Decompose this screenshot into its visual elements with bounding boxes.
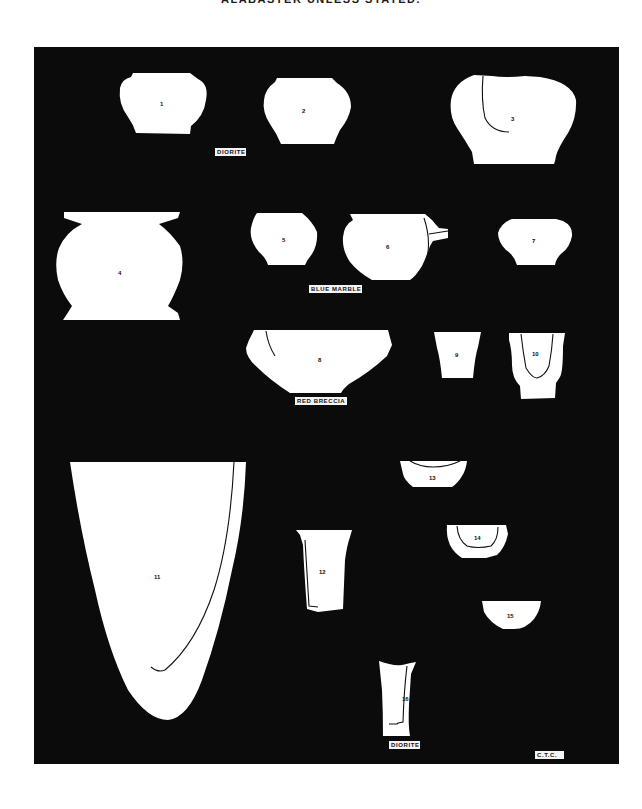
- vessel-drawings: 1 2 DIORITE 3 4 5 6 BLUE MARBLE 7: [0, 0, 642, 809]
- vessel-number: 10: [532, 351, 539, 357]
- vessel-number: 15: [507, 613, 514, 619]
- vessel-number: 14: [474, 535, 481, 541]
- vessel-4: 4: [56, 212, 182, 320]
- material-label-red-breccia: RED BRECCIA: [295, 397, 347, 405]
- vessel-15: 15: [482, 601, 541, 629]
- svg-text:C.T.C.: C.T.C.: [537, 752, 557, 758]
- vessel-6: 6: [343, 214, 448, 280]
- material-label-blue-marble: BLUE MARBLE: [309, 285, 362, 293]
- vessel-12: 12: [296, 530, 352, 612]
- vessel-number: 11: [154, 574, 161, 580]
- svg-text:BLUE MARBLE: BLUE MARBLE: [311, 286, 361, 292]
- vessel-5: 5: [251, 213, 317, 265]
- vessel-13: 13: [400, 461, 467, 487]
- svg-text:RED BRECCIA: RED BRECCIA: [297, 398, 345, 404]
- vessel-2: 2: [264, 78, 351, 144]
- vessel-number: 16: [402, 696, 409, 702]
- vessel-8: 8: [246, 330, 392, 393]
- vessel-11: 11: [70, 462, 246, 720]
- vessel-number: 13: [429, 475, 436, 481]
- svg-text:DIORITE: DIORITE: [217, 149, 246, 155]
- vessel-10: 10: [509, 333, 565, 399]
- vessel-9: 9: [434, 332, 481, 378]
- signature-ctc: C.T.C.: [535, 751, 564, 759]
- material-label-diorite: DIORITE: [215, 148, 246, 156]
- vessel-7: 7: [498, 219, 572, 265]
- vessel-14: 14: [447, 525, 508, 558]
- vessel-16: 16: [379, 661, 416, 736]
- vessel-1: 1: [120, 73, 207, 134]
- material-label-diorite-2: DIORITE: [389, 741, 420, 749]
- vessel-3: 3: [451, 75, 576, 164]
- vessel-number: 12: [319, 569, 326, 575]
- svg-text:DIORITE: DIORITE: [391, 742, 420, 748]
